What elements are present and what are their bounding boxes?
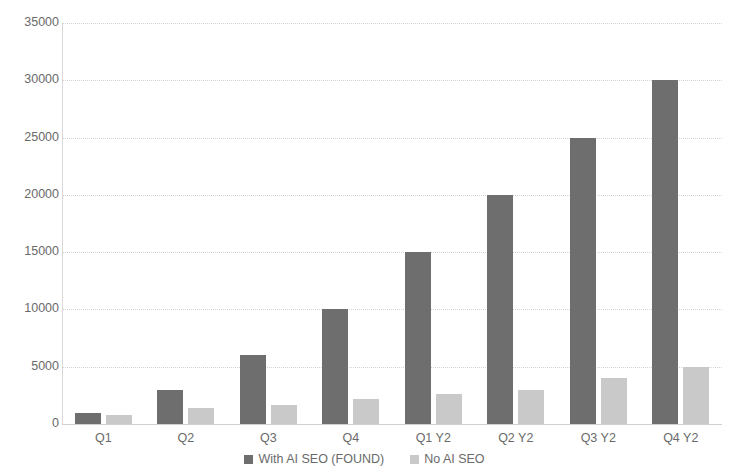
legend-item[interactable]: No AI SEO bbox=[410, 452, 484, 466]
bar-group bbox=[310, 23, 393, 424]
bar-group bbox=[557, 23, 640, 424]
y-axis-tick-label: 25000 bbox=[0, 131, 59, 144]
legend-label: With AI SEO (FOUND) bbox=[258, 452, 384, 466]
x-axis-tick-label: Q2 Y2 bbox=[475, 430, 558, 450]
bar bbox=[271, 405, 297, 424]
gridline bbox=[62, 424, 722, 425]
bar bbox=[157, 390, 183, 424]
bar bbox=[240, 355, 266, 424]
x-axis-tick-label: Q3 Y2 bbox=[557, 430, 640, 450]
bar bbox=[652, 80, 678, 424]
legend-swatch-icon bbox=[244, 455, 253, 464]
x-axis-tick-label: Q4 bbox=[310, 430, 393, 450]
bar bbox=[405, 252, 431, 424]
chart-legend: With AI SEO (FOUND)No AI SEO bbox=[0, 452, 729, 466]
y-axis-tick-label: 20000 bbox=[0, 188, 59, 201]
bar bbox=[601, 378, 627, 424]
bar bbox=[518, 390, 544, 424]
y-axis-tick-label: 30000 bbox=[0, 73, 59, 86]
bar bbox=[436, 394, 462, 424]
bar-group bbox=[475, 23, 558, 424]
x-axis-tick-label: Q3 bbox=[227, 430, 310, 450]
bar bbox=[683, 367, 709, 424]
y-axis-tick-label: 5000 bbox=[0, 360, 59, 373]
y-axis-tick-label: 35000 bbox=[0, 16, 59, 29]
x-axis-tick-label: Q4 Y2 bbox=[640, 430, 723, 450]
legend-item[interactable]: With AI SEO (FOUND) bbox=[244, 452, 384, 466]
bar-chart: 05000100001500020000250003000035000 Q1Q2… bbox=[0, 0, 729, 474]
bar-group bbox=[145, 23, 228, 424]
y-axis-tick-label: 15000 bbox=[0, 245, 59, 258]
bar bbox=[570, 138, 596, 424]
bar-group bbox=[227, 23, 310, 424]
bar-groups bbox=[62, 23, 722, 424]
plot-area bbox=[62, 23, 722, 424]
legend-swatch-icon bbox=[410, 455, 419, 464]
bar bbox=[322, 309, 348, 424]
x-axis-tick-label: Q2 bbox=[145, 430, 228, 450]
y-axis-tick-label: 10000 bbox=[0, 302, 59, 315]
x-axis-tick-label: Q1 Y2 bbox=[392, 430, 475, 450]
bar-group bbox=[640, 23, 723, 424]
bar-group bbox=[392, 23, 475, 424]
x-axis-tick-labels: Q1Q2Q3Q4Q1 Y2Q2 Y2Q3 Y2Q4 Y2 bbox=[62, 430, 722, 450]
bar bbox=[188, 408, 214, 424]
legend-label: No AI SEO bbox=[424, 452, 484, 466]
bar-group bbox=[62, 23, 145, 424]
y-axis-tick-label: 0 bbox=[0, 417, 59, 430]
x-axis-tick-label: Q1 bbox=[62, 430, 145, 450]
bar bbox=[353, 399, 379, 424]
bar bbox=[106, 415, 132, 424]
bar bbox=[75, 413, 101, 424]
bar bbox=[487, 195, 513, 424]
